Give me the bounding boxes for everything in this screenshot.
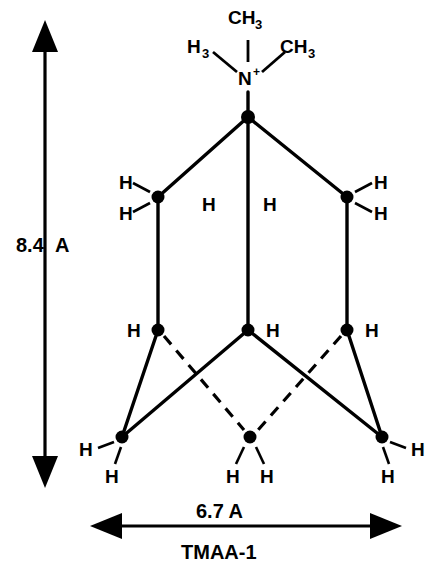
bond-h-bottom-left-under bbox=[115, 447, 121, 464]
atom-node-mid-left bbox=[152, 324, 165, 337]
bond-n-to-left-methyl bbox=[213, 52, 237, 72]
h-mid-right: H bbox=[365, 320, 379, 341]
horizontal-arrow-head-right bbox=[370, 513, 402, 539]
bond-mid-left-to-bottom-center-dashed bbox=[164, 336, 244, 430]
head-group: CH 3 H 3 CH 3 N + bbox=[187, 7, 315, 89]
hydrogen-bonds bbox=[98, 183, 406, 464]
nitrogen-charge: + bbox=[253, 65, 260, 79]
h-upper-right-a: H bbox=[374, 172, 388, 193]
molecular-structure-figure: 8.4 A CH 3 H 3 CH 3 N + bbox=[0, 0, 437, 567]
bond-h-upper-right-a bbox=[355, 183, 372, 192]
atom-node-upper-left bbox=[152, 191, 165, 204]
vertical-arrow-head-bottom bbox=[32, 456, 58, 488]
h-center-upper-left: H bbox=[202, 194, 216, 215]
atom-node-mid-center bbox=[242, 324, 255, 337]
bond-h-upper-left-b bbox=[133, 203, 150, 212]
h-center-upper-right: H bbox=[263, 194, 277, 215]
bond-apex-to-upper-left bbox=[158, 117, 248, 197]
bond-h-upper-left-a bbox=[133, 183, 150, 192]
atom-node-mid-right bbox=[341, 324, 354, 337]
h-upper-right-b: H bbox=[374, 203, 388, 224]
vertical-arrow-head-top bbox=[32, 20, 58, 52]
bond-h-upper-right-b bbox=[355, 203, 372, 212]
vertical-dimension-unit: A bbox=[55, 234, 69, 256]
atom-node-bottom-center bbox=[244, 431, 257, 444]
vertical-dimension-value: 8.4 bbox=[16, 234, 45, 256]
methyl-top-label: CH bbox=[228, 7, 255, 28]
bond-h-bottom-right-side bbox=[390, 442, 406, 448]
figure-caption: TMAA-1 bbox=[181, 541, 257, 563]
bond-h-bottom-left-side bbox=[98, 442, 114, 448]
bond-h-bottom-center-left bbox=[236, 447, 244, 464]
atom-node-bottom-left bbox=[116, 431, 129, 444]
h-mid-center: H bbox=[266, 320, 280, 341]
h-bottom-right-side: H bbox=[411, 439, 425, 460]
horizontal-dimension-arrow bbox=[90, 513, 402, 539]
h-bottom-right-under: H bbox=[381, 466, 395, 487]
h-mid-left: H bbox=[127, 320, 141, 341]
methyl-right-subscript: 3 bbox=[308, 46, 315, 61]
h-bottom-left-under: H bbox=[105, 466, 119, 487]
h-bottom-center-left: H bbox=[226, 466, 240, 487]
bond-network bbox=[122, 92, 382, 437]
methyl-left-label: H bbox=[187, 36, 201, 57]
h-upper-left-a: H bbox=[119, 172, 133, 193]
bond-h-bottom-center-right bbox=[256, 447, 264, 464]
atom-node-apex bbox=[241, 110, 255, 124]
atom-node-bottom-right bbox=[376, 431, 389, 444]
bond-h-bottom-right-under bbox=[383, 447, 389, 464]
h-bottom-left-side: H bbox=[79, 439, 93, 460]
h-bottom-center-right: H bbox=[260, 466, 274, 487]
atom-node-upper-right bbox=[341, 191, 354, 204]
horizontal-arrow-head-left bbox=[90, 513, 122, 539]
methyl-left-subscript: 3 bbox=[202, 46, 209, 61]
methyl-top-subscript: 3 bbox=[255, 17, 262, 32]
methyl-right-label: CH bbox=[280, 36, 307, 57]
nitrogen-label: N bbox=[238, 68, 252, 89]
bond-mid-center-to-bottom-right bbox=[248, 330, 382, 437]
h-upper-left-b: H bbox=[119, 203, 133, 224]
horizontal-dimension-label: 6.7 A bbox=[196, 500, 243, 522]
bond-apex-to-upper-right bbox=[248, 117, 347, 197]
